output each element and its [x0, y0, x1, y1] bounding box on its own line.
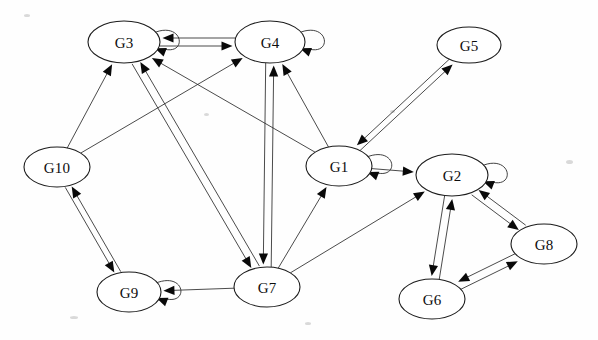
edge-g10-g4	[81, 62, 236, 153]
edge-g7-g3-arrowhead	[140, 62, 150, 74]
edge-g6-g2-arrowhead	[446, 199, 455, 211]
edge-g7-g3	[145, 69, 260, 266]
edge-g1-g4	[287, 72, 329, 147]
edge-g10-g4-arrowhead	[231, 58, 243, 68]
node-g5-label: G5	[460, 38, 479, 54]
edge-g3-g7	[132, 64, 247, 261]
edge-g9-g10-arrowhead	[72, 187, 82, 199]
edge-g7-g4-arrowhead	[269, 66, 278, 77]
paper-speck	[70, 316, 78, 319]
edge-g1-g3-arrowhead	[152, 58, 164, 67]
node-g2[interactable]: G2	[416, 154, 488, 196]
node-g2-label: G2	[443, 168, 462, 184]
edge-g1-g2	[372, 169, 406, 172]
node-g8-label: G8	[535, 237, 554, 253]
edge-g1-g5	[359, 70, 446, 151]
edge-g10-g9-arrowhead	[105, 261, 115, 273]
edge-g1-g3	[159, 62, 315, 152]
node-g1[interactable]: G1	[306, 146, 372, 186]
edge-g3-g4-arrowhead	[222, 41, 233, 50]
paper-speck	[566, 160, 573, 164]
edge-g7-g2-arrowhead	[413, 192, 425, 202]
node-g9[interactable]: G9	[97, 272, 161, 312]
node-g4[interactable]: G4	[235, 21, 305, 63]
node-g7-label: G7	[258, 280, 277, 296]
paper-speck	[24, 14, 30, 17]
node-g1-label: G1	[330, 159, 349, 175]
node-g5[interactable]: G5	[437, 27, 501, 63]
edge-g5-g1	[363, 58, 450, 139]
node-g8[interactable]: G8	[511, 224, 577, 264]
edge-g10-g9	[65, 187, 110, 265]
node-g3-label: G3	[115, 35, 134, 51]
node-g6[interactable]: G6	[399, 279, 465, 319]
edge-g10-g3	[67, 72, 108, 148]
edge-g8-g6-arrowhead	[458, 273, 470, 282]
node-g10[interactable]: G10	[24, 147, 90, 187]
diagram-canvas: G1G2G3G4G5G6G7G8G9G10	[0, 0, 598, 340]
edge-g3-g7-arrowhead	[242, 256, 252, 268]
edge-g4-g7	[263, 63, 265, 256]
edge-g8-g2-arrowhead	[479, 190, 491, 200]
node-g6-label: G6	[423, 292, 442, 308]
edge-g9-g10	[76, 194, 121, 272]
edge-g10-g3-arrowhead	[103, 64, 112, 76]
node-layer: G1G2G3G4G5G6G7G8G9G10	[24, 21, 577, 319]
edge-g7-g4	[271, 74, 273, 267]
node-g7[interactable]: G7	[234, 267, 300, 307]
edge-g7-g2	[290, 196, 417, 273]
node-g4-label: G4	[261, 35, 280, 51]
paper-speck	[305, 322, 311, 325]
graph-svg: G1G2G3G4G5G6G7G8G9G10	[0, 0, 598, 340]
edge-g7-g9-arrowhead	[163, 286, 174, 295]
edge-g7-g1-arrowhead	[317, 187, 327, 199]
edge-g2-g8-arrowhead	[507, 220, 519, 230]
node-g10-label: G10	[44, 160, 70, 176]
edge-g1-g4-arrowhead	[282, 64, 291, 76]
edge-g4-g3-arrowhead	[163, 33, 174, 42]
edge-g1-g2-arrowhead	[403, 167, 414, 176]
edge-g2-g6-arrowhead	[429, 264, 438, 276]
paper-speck	[204, 113, 209, 116]
node-g3[interactable]: G3	[88, 21, 160, 63]
node-g9-label: G9	[120, 285, 139, 301]
edge-g4-g7-arrowhead	[259, 253, 268, 264]
edge-g6-g8-arrowhead	[506, 261, 518, 270]
